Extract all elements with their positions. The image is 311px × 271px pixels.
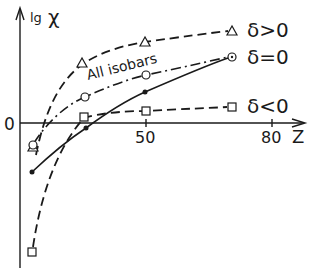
x-tick-label-80: 80 [261, 128, 281, 147]
open-circle-marker-icon [81, 93, 89, 101]
triangle-marker-icon [77, 58, 87, 67]
series-delta-positive [28, 26, 237, 155]
series-delta-negative [28, 103, 236, 256]
legend-delta-zero: δ=0 [247, 45, 289, 69]
legend-delta-positive: δ>0 [247, 18, 289, 42]
square-marker-icon [28, 248, 36, 256]
filled-dot-marker-icon [84, 126, 89, 131]
origin-label: 0 [4, 114, 15, 134]
square-marker-icon [80, 113, 88, 121]
filled-dot-marker-icon [143, 90, 148, 95]
y-axis-label-symbol: χ [48, 5, 60, 29]
square-marker-icon [228, 103, 236, 111]
center-dot-icon [231, 56, 233, 58]
y-axis-label-prefix: lg [30, 10, 42, 25]
open-circle-marker-icon [142, 71, 150, 79]
filled-dot-marker-icon [30, 170, 35, 175]
square-marker-icon [142, 107, 150, 115]
open-circle-marker-icon [29, 141, 37, 149]
series-solid [30, 58, 229, 175]
isobar-diagram: lg χ 0 50 80 Z All isobars δ>0 δ=0 δ<0 [0, 0, 311, 271]
x-axis-label: Z [292, 126, 304, 147]
triangle-marker-icon [227, 26, 237, 35]
x-tick-label-50: 50 [135, 128, 155, 147]
legend-delta-negative: δ<0 [247, 94, 289, 118]
